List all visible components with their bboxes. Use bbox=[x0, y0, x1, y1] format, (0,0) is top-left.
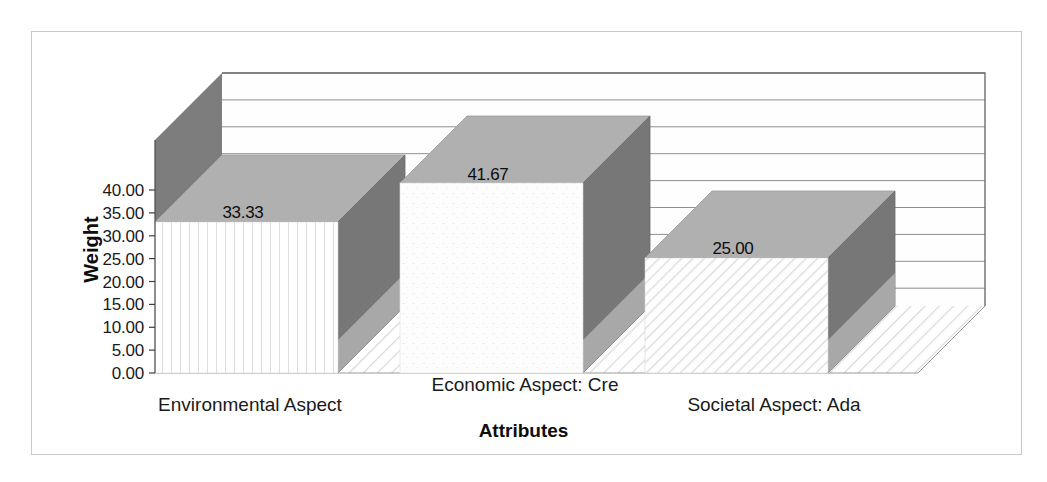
y-tick-label-35: 35.00 bbox=[62, 204, 144, 224]
y-tick-label-25: 25.00 bbox=[62, 250, 144, 270]
chart-screenshot: 40.00 35.00 30.00 25.00 20.00 15.00 10.0… bbox=[0, 0, 1047, 482]
y-tick-label-0: 0.00 bbox=[62, 364, 144, 384]
bar-environmental-aspect[interactable] bbox=[155, 155, 405, 373]
x-category-label-economic: Economic Aspect: Cre bbox=[385, 374, 665, 396]
y-tick-label-40: 40.00 bbox=[62, 181, 144, 201]
x-axis-title: Attributes bbox=[0, 420, 1047, 442]
bar-value-label-societal: 25.00 bbox=[673, 239, 793, 259]
y-tick-label-15: 15.00 bbox=[62, 295, 144, 315]
y-tick-label-5: 5.00 bbox=[62, 341, 144, 361]
y-tick-label-10: 10.00 bbox=[62, 318, 144, 338]
y-axis-title: Weight bbox=[80, 195, 103, 305]
x-category-label-environmental: Environmental Aspect bbox=[110, 394, 390, 416]
bar-value-label-economic: 41.67 bbox=[428, 165, 548, 185]
y-tick-label-30: 30.00 bbox=[62, 227, 144, 247]
bar-economic-aspect[interactable] bbox=[400, 116, 650, 373]
y-tick-label-20: 20.00 bbox=[62, 273, 144, 293]
bar-value-label-environmental: 33.33 bbox=[183, 203, 303, 223]
x-category-label-societal: Societal Aspect: Ada bbox=[634, 394, 914, 416]
y-axis bbox=[149, 140, 155, 373]
